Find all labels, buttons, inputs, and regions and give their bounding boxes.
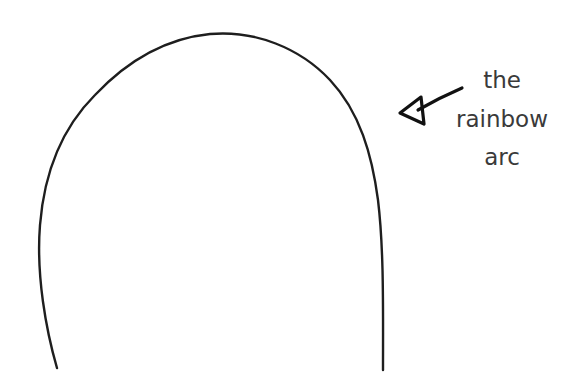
arrow-icon [400, 88, 462, 124]
annotation-label: the rainbow arc [456, 67, 548, 170]
label-line-3: arc [484, 144, 520, 170]
rainbow-arc-curve [39, 33, 383, 370]
diagram-canvas: the rainbow arc [0, 0, 581, 384]
label-line-2: rainbow [456, 106, 548, 132]
label-line-1: the [483, 67, 521, 93]
